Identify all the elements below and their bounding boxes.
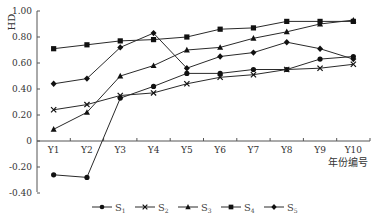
x-axis: Y1Y2Y3Y4Y5Y6Y7Y8Y9Y10 — [37, 138, 370, 155]
x-tick-label: Y1 — [47, 145, 60, 155]
square-marker-icon — [317, 19, 322, 24]
y-tick-label: 0.60 — [12, 58, 32, 68]
line-chart: 1.000.800.600.400.200-0.20-0.40 Y1Y2Y3Y4… — [0, 0, 375, 220]
triangle-marker-icon — [51, 126, 57, 132]
triangle-marker-icon — [151, 62, 157, 68]
series-line — [54, 21, 354, 48]
x-tick-label: Y8 — [280, 145, 293, 155]
x-tick-label: Y9 — [313, 145, 326, 155]
square-marker-icon — [284, 19, 289, 24]
y-tick-label: -0.20 — [9, 162, 32, 172]
y-axis: 1.000.800.600.400.200-0.20-0.40 — [9, 6, 40, 198]
square-marker-icon — [151, 37, 156, 42]
diamond-marker-icon — [250, 49, 256, 55]
square-marker-icon — [218, 27, 223, 32]
y-tick-label: 0.20 — [12, 110, 32, 120]
diamond-marker-icon — [217, 53, 223, 59]
x-tick-label: Y5 — [180, 145, 193, 155]
circle-marker-icon — [251, 67, 256, 72]
square-marker-icon — [351, 19, 356, 24]
diamond-marker-icon — [284, 39, 290, 45]
series-layer — [51, 17, 357, 180]
y-axis-title: HD — [6, 14, 17, 31]
y-tick-label: 0 — [26, 136, 32, 146]
series-line — [54, 57, 354, 178]
x-tick-label: Y2 — [80, 145, 93, 155]
series-s5 — [51, 30, 357, 87]
series-line — [54, 33, 354, 84]
circle-marker-icon — [151, 84, 156, 89]
legend-item-s5: S5 — [264, 202, 298, 214]
square-marker-icon — [118, 38, 123, 43]
y-tick-label: 0.80 — [12, 32, 32, 42]
legend-item-s1: S1 — [92, 202, 126, 214]
series-s1 — [51, 54, 356, 180]
legend-label: S1 — [115, 202, 126, 214]
circle-marker-icon — [184, 71, 189, 76]
x-tick-label: Y7 — [247, 145, 260, 155]
square-marker-icon — [51, 46, 56, 51]
y-tick-label: 0.40 — [12, 84, 32, 94]
circle-marker-icon — [51, 172, 56, 177]
series-line — [54, 20, 354, 129]
diamond-marker-icon — [271, 204, 276, 210]
x-axis-title: 年份编号 — [328, 156, 368, 168]
diamond-marker-icon — [317, 46, 323, 52]
square-marker-icon — [251, 25, 256, 30]
legend-item-s4: S4 — [221, 202, 255, 214]
circle-marker-icon — [317, 57, 322, 62]
diamond-marker-icon — [51, 81, 57, 87]
y-tick-label: -0.40 — [9, 188, 32, 198]
square-marker-icon — [184, 34, 189, 39]
square-marker-icon — [229, 205, 234, 210]
square-marker-icon — [84, 42, 89, 47]
legend: S1S2S3S4S5 — [92, 202, 298, 214]
legend-item-s3: S3 — [178, 202, 212, 214]
legend-item-s2: S2 — [135, 202, 169, 214]
legend-label: S3 — [201, 202, 212, 214]
series-line — [54, 64, 354, 110]
legend-label: S5 — [287, 202, 298, 214]
circle-marker-icon — [100, 205, 105, 210]
x-tick-label: Y4 — [147, 145, 160, 155]
legend-label: S4 — [244, 202, 255, 214]
circle-marker-icon — [84, 175, 89, 180]
x-tick-label: Y3 — [113, 145, 126, 155]
x-tick-label: Y10 — [344, 145, 363, 155]
x-tick-label: Y6 — [213, 145, 226, 155]
legend-label: S2 — [158, 202, 169, 214]
series-s3 — [51, 17, 357, 132]
